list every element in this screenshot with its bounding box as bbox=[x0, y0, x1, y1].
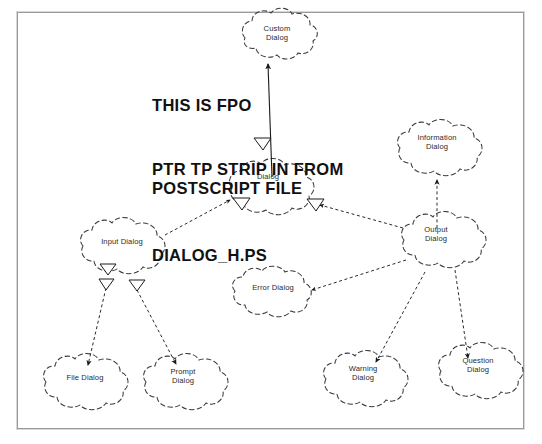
fpo-text-line-2: PTR TP STRIP IN FROM POSTSCRIPT FILE bbox=[152, 160, 344, 198]
hollow-triangle-icon bbox=[100, 264, 116, 275]
hollow-triangle-icon bbox=[99, 279, 114, 290]
hollow-triangle-icon bbox=[233, 198, 250, 210]
cloud-error-dialog bbox=[233, 266, 312, 317]
edge-output-to-warning bbox=[376, 272, 425, 362]
fpo-text-line-1: THIS IS FPO bbox=[152, 96, 252, 115]
edge-input-to-prompt bbox=[137, 290, 176, 364]
edge-input-to-dialog bbox=[165, 200, 230, 235]
cloud-question-dialog bbox=[439, 342, 523, 398]
hollow-triangle-icon bbox=[129, 280, 145, 291]
cloud-prompt-dialog bbox=[144, 353, 228, 409]
diagram-canvas bbox=[0, 0, 542, 444]
edge-output-to-dialog bbox=[320, 205, 403, 228]
cloud-output-dialog bbox=[402, 211, 486, 267]
cloud-file-dialog bbox=[44, 353, 128, 409]
edge-error-to-output bbox=[312, 260, 406, 290]
cloud-warning-dialog bbox=[324, 350, 408, 406]
screenshot-root: Custom Dialog Dialog Information Dialog … bbox=[0, 0, 542, 444]
cloud-information-dialog bbox=[398, 119, 482, 175]
fpo-text-line-3: DIALOG_H.PS bbox=[152, 246, 267, 265]
edge-input-to-file bbox=[88, 288, 106, 365]
hollow-triangle-icon bbox=[254, 138, 271, 150]
cloud-custom-dialog bbox=[242, 8, 317, 59]
